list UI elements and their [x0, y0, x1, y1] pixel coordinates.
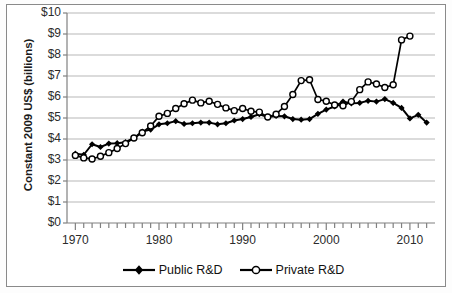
chart-frame: Constant 2009 US$ (billions) Public R&D … — [6, 4, 446, 287]
y-tick-label: $1 — [19, 194, 61, 208]
data-point-marker — [248, 108, 254, 114]
data-point-marker — [290, 91, 296, 97]
data-point-marker — [206, 120, 212, 126]
legend-item-public-rd[interactable]: Public R&D — [122, 263, 223, 277]
data-point-marker — [365, 79, 371, 85]
data-point-marker — [382, 85, 388, 91]
x-tick-label: 2010 — [385, 233, 435, 247]
data-point-marker — [198, 120, 204, 126]
data-point-marker — [298, 78, 304, 84]
data-point-marker — [97, 153, 103, 159]
y-tick-label: $4 — [19, 131, 61, 145]
data-point-marker — [357, 100, 363, 106]
data-point-marker — [173, 118, 179, 124]
data-point-marker — [181, 101, 187, 107]
data-point-marker — [181, 121, 187, 127]
data-point-marker — [123, 141, 129, 147]
data-point-marker — [131, 135, 137, 141]
data-point-marker — [97, 144, 103, 150]
data-point-marker — [206, 98, 212, 104]
y-tick-label: $6 — [19, 89, 61, 103]
y-tick-label: $2 — [19, 173, 61, 187]
data-point-marker — [114, 145, 120, 151]
data-point-marker — [399, 37, 405, 43]
x-tick-label: 2000 — [301, 233, 351, 247]
y-tick-label: $3 — [19, 152, 61, 166]
series-line-public-r-d — [75, 99, 426, 155]
data-point-marker — [89, 156, 95, 162]
data-point-marker — [139, 130, 145, 136]
data-point-marker — [164, 110, 170, 116]
y-tick-label: $5 — [19, 110, 61, 124]
data-point-marker — [256, 109, 262, 115]
data-point-marker — [198, 100, 204, 106]
data-point-marker — [281, 103, 287, 109]
data-point-marker — [365, 98, 371, 104]
data-point-marker — [156, 113, 162, 119]
data-point-marker — [307, 77, 313, 83]
data-point-marker — [323, 98, 329, 104]
data-point-marker — [214, 121, 220, 127]
data-point-marker — [348, 99, 354, 105]
y-tick-label: $7 — [19, 68, 61, 82]
data-point-marker — [148, 123, 154, 129]
data-point-marker — [215, 101, 221, 107]
data-point-marker — [290, 116, 296, 122]
legend-label-public-rd: Public R&D — [158, 263, 223, 277]
data-point-marker — [106, 141, 112, 147]
data-point-marker — [373, 99, 379, 105]
data-point-marker — [390, 82, 396, 88]
data-point-marker — [81, 155, 87, 161]
data-point-marker — [357, 87, 363, 93]
y-tick-label: $0 — [19, 215, 61, 229]
data-point-marker — [315, 97, 321, 103]
legend-label-private-rd: Private R&D — [275, 263, 345, 277]
legend-swatch-private-rd — [239, 263, 273, 277]
data-point-marker — [173, 106, 179, 112]
data-point-marker — [373, 81, 379, 87]
data-point-marker — [189, 120, 195, 126]
y-tick-label: $9 — [19, 26, 61, 40]
data-point-marker — [265, 114, 271, 120]
data-point-marker — [407, 33, 413, 39]
data-point-marker — [273, 111, 279, 117]
data-point-marker — [106, 150, 112, 156]
data-point-marker — [231, 108, 237, 114]
data-point-marker — [332, 102, 338, 108]
data-point-marker — [223, 105, 229, 111]
data-point-marker — [72, 152, 78, 158]
x-tick-label: 1970 — [50, 233, 100, 247]
legend-item-private-rd[interactable]: Private R&D — [239, 263, 345, 277]
data-point-marker — [164, 120, 170, 126]
chart-legend: Public R&D Private R&D — [7, 263, 452, 277]
data-point-marker — [223, 120, 229, 126]
x-tick-label: 1990 — [218, 233, 268, 247]
data-point-marker — [240, 116, 246, 122]
chart-figure: Constant 2009 US$ (billions) Public R&D … — [0, 0, 452, 293]
data-point-marker — [189, 97, 195, 103]
data-point-marker — [240, 106, 246, 112]
data-point-marker — [340, 103, 346, 109]
x-tick-label: 1980 — [134, 233, 184, 247]
legend-swatch-public-rd — [122, 263, 156, 277]
y-tick-label: $10 — [19, 5, 61, 19]
y-tick-label: $8 — [19, 47, 61, 61]
